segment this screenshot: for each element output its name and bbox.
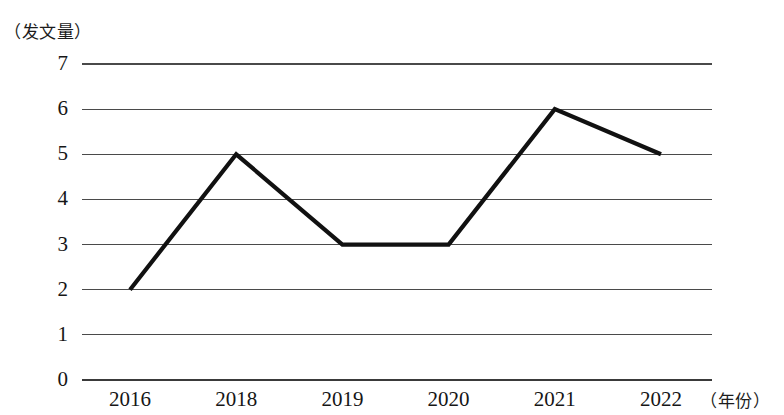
x-axis-tick-label: 2021 [510,389,600,410]
y-axis-tick-label: 5 [38,143,68,164]
x-axis-tick-label: 2016 [85,389,175,410]
plot-area: 01234567 201620182019202020212022 [0,0,784,415]
x-axis-tick-label: 2020 [404,389,494,410]
y-axis-tick-label: 2 [38,279,68,300]
gridlines [82,64,712,380]
y-axis-tick-label: 6 [38,98,68,119]
y-axis-tick-label: 7 [38,53,68,74]
y-axis-tick-label: 4 [38,188,68,209]
x-axis-tick-label: 2019 [297,389,387,410]
chart-canvas [0,0,784,415]
line-chart: （发文量） （年份） 01234567 20162018201920202021… [0,0,784,415]
y-axis-tick-label: 0 [38,369,68,390]
y-axis-tick-label: 1 [38,324,68,345]
y-axis-tick-label: 3 [38,234,68,255]
x-axis-tick-label: 2018 [191,389,281,410]
x-axis-tick-label: 2022 [616,389,706,410]
